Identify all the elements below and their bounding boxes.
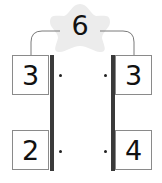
right-bottom-dot [104,150,107,153]
left-divider-bar [50,55,54,171]
right-bottom-box: 4 [115,130,152,170]
connector-right [100,31,134,55]
total-number: 6 [66,10,94,41]
right-top-dot [104,74,107,77]
left-bottom-box: 2 [12,130,49,170]
number-bond-diagram: 6 3 2 3 4 [0,0,162,183]
right-top-box: 3 [115,55,152,95]
connector-left [31,31,60,55]
left-bottom-dot [59,150,62,153]
left-top-box: 3 [12,55,49,95]
left-top-dot [59,74,62,77]
